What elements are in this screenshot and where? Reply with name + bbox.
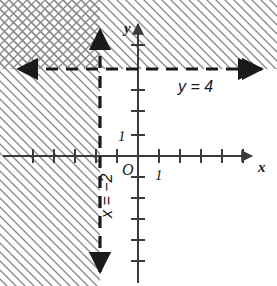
origin-label: O [122, 161, 134, 178]
x-unit-label: 1 [155, 167, 163, 183]
label-line-x-equals-neg2: x = −2 [98, 173, 115, 219]
y-unit-label: 1 [118, 128, 126, 144]
coordinate-plane-svg: x y O 1 1 y = 4 x = −2 [0, 0, 277, 286]
graph-figure: x y O 1 1 y = 4 x = −2 [0, 0, 277, 286]
y-axis-label: y [122, 20, 131, 36]
x-axis-label: x [257, 159, 266, 175]
label-line-y-equals-4: y = 4 [177, 78, 213, 95]
region-overlap-solution [0, 0, 100, 69]
